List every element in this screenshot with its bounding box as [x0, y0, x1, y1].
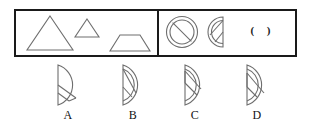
option-c[interactable]: C	[164, 62, 226, 122]
option-d-label: D	[226, 108, 288, 122]
visual-reasoning-puzzle: ( ) A B	[0, 0, 310, 133]
option-b-figure	[102, 62, 164, 108]
option-c-label: C	[164, 108, 226, 122]
option-b[interactable]: B	[102, 62, 164, 122]
figure-trapezoid	[108, 33, 152, 53]
figure-small-triangle	[73, 17, 101, 39]
figure-half-circle-with-slash	[202, 16, 226, 48]
option-a-figure	[37, 62, 99, 108]
figure-large-triangle	[25, 14, 75, 52]
figure-circle-with-slash	[165, 15, 199, 49]
option-c-figure	[164, 62, 226, 108]
option-a-label: A	[37, 108, 99, 122]
option-a[interactable]: A	[37, 62, 99, 122]
panel-divider	[157, 9, 159, 57]
blank-answer-slot: ( )	[243, 24, 283, 36]
option-d[interactable]: D	[226, 62, 288, 122]
option-d-figure	[226, 62, 288, 108]
option-b-label: B	[102, 108, 164, 122]
